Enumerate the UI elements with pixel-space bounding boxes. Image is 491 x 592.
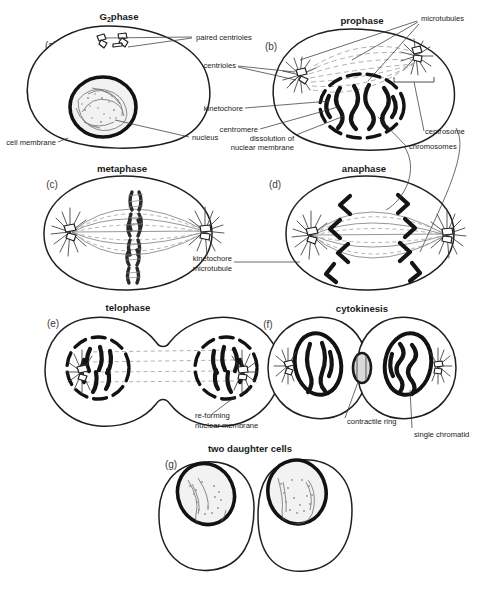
panel-e-telophase: telophase (e) [45, 302, 280, 430]
panel-c-letter: (c) [46, 179, 58, 190]
label-reforming-1: re-forming [195, 411, 230, 420]
panel-f-title: cytokinesis [336, 303, 388, 314]
panel-d-letter: (d) [269, 179, 281, 190]
label-cell-membrane: cell membrane [6, 138, 56, 147]
contractile-ring [353, 353, 371, 383]
panel-d-title: anaphase [342, 163, 386, 174]
panel-b-letter: (b) [265, 41, 277, 52]
panel-d-anaphase: anaphase (d) [193, 128, 466, 290]
label-kinetochore: kinetochore [204, 104, 243, 113]
nucleus-a [70, 77, 136, 137]
label-reforming-2: nuclear membrane [195, 421, 258, 430]
panel-c-title: metaphase [97, 163, 147, 174]
panel-e-title: telophase [106, 302, 151, 313]
label-paired-centrioles: paired centrioles [196, 33, 252, 42]
label-dissolution-1: dissolution of [250, 134, 295, 143]
label-nucleus: nucleus [192, 133, 218, 142]
panel-a-title: G2phase [99, 11, 138, 23]
label-centrioles: centrioles [204, 61, 237, 70]
panel-f-letter: (f) [263, 319, 272, 330]
label-chromosomes: chromosomes [409, 142, 457, 151]
panel-g-letter: (g) [165, 459, 177, 470]
panel-e-letter: (e) [47, 318, 59, 329]
label-kinetochore-mt-2: microtubule [193, 264, 232, 273]
label-microtubules: microtubules [421, 14, 464, 23]
label-contractile-ring: contractile ring [347, 417, 396, 426]
panel-g-two-daughter-cells: two daughter cells (g) [159, 443, 352, 571]
mitosis-figure: G2phase (a) [0, 0, 491, 592]
panel-g-title: two daughter cells [208, 443, 292, 454]
panel-f-cytokinesis: cytokinesis (f) [263, 303, 469, 439]
panel-b-title: prophase [340, 15, 383, 26]
label-centromere: centromere [220, 125, 258, 134]
mitosis-diagram-svg: G2phase (a) [0, 0, 491, 592]
label-dissolution-2: nuclear membrane [231, 143, 294, 152]
panel-a-g2phase: G2phase (a) [6, 11, 252, 148]
label-single-chromatid: single chromatid [414, 430, 469, 439]
label-kinetochore-mt-1: kinetochore [193, 254, 232, 263]
